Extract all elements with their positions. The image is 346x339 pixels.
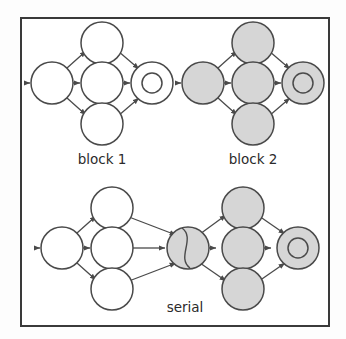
serial-top-branch-node-left[interactable] <box>91 187 133 229</box>
block1-sink-node-inner-ring <box>142 73 162 93</box>
block1-source-node[interactable] <box>31 62 73 104</box>
serial-middle-branch-node-left[interactable] <box>91 227 133 269</box>
petri-net-diagram: block 1 block 2 <box>0 0 346 339</box>
serial-edge-merge-to-bottom-right <box>200 263 226 281</box>
block2-top-branch-node[interactable] <box>232 22 274 64</box>
serial-middle-branch-node-right[interactable] <box>222 227 264 269</box>
block1-nodes <box>31 22 173 145</box>
block1-edge-bottom-to-sink <box>118 98 139 116</box>
block2-edge-top-to-sink <box>269 51 290 69</box>
block2-nodes <box>182 22 324 145</box>
block1-edge-source-to-bottom <box>67 98 86 115</box>
serial-sink-node-inner-ring <box>288 238 308 258</box>
serial-edge-bottom-right-to-sink <box>259 263 285 281</box>
serial-merge-node[interactable] <box>167 227 209 269</box>
block2-source-node[interactable] <box>182 62 224 104</box>
block2-sink-node-inner-ring <box>293 73 313 93</box>
block2-caption: block 2 <box>229 151 278 167</box>
block1-bottom-branch-node[interactable] <box>81 103 123 145</box>
serial-edge-bottom-left-to-merge <box>129 263 176 281</box>
figure-stage: block 1 block 2 <box>0 0 346 339</box>
serial-edge-source-to-bottom-left <box>77 263 96 280</box>
serial-nodes <box>41 187 319 310</box>
serial-caption: serial <box>167 299 204 315</box>
serial-edge-merge-to-top-right <box>200 215 226 234</box>
block1-middle-branch-node[interactable] <box>81 62 123 104</box>
block2-edge-bottom-to-sink <box>269 98 290 116</box>
serial-source-node[interactable] <box>41 227 83 269</box>
panel-block1: block 1 <box>24 22 173 167</box>
panel-block2: block 2 <box>175 22 324 167</box>
block1-top-branch-node[interactable] <box>81 22 123 64</box>
block1-caption: block 1 <box>78 151 127 167</box>
serial-edge-top-left-to-merge <box>129 217 176 235</box>
block2-bottom-branch-node[interactable] <box>232 103 274 145</box>
serial-top-branch-node-right[interactable] <box>222 187 264 229</box>
serial-bottom-branch-node-right[interactable] <box>222 268 264 310</box>
block2-edge-source-to-bottom <box>218 98 237 115</box>
panel-serial: serial <box>34 187 319 315</box>
block1-edge-top-to-sink <box>118 51 139 69</box>
serial-edge-top-right-to-sink <box>259 216 285 234</box>
serial-bottom-branch-node-left[interactable] <box>91 268 133 310</box>
block2-middle-branch-node[interactable] <box>232 62 274 104</box>
